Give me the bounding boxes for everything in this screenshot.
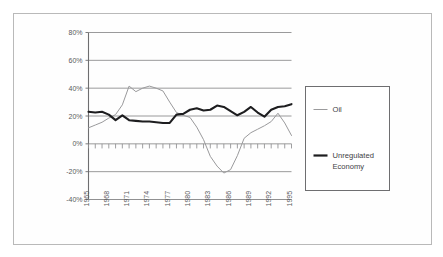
x-tick-label: 1971 (123, 191, 130, 207)
y-tick-label: -40% (66, 196, 82, 203)
data-series (89, 86, 292, 173)
y-tick-label: 40% (68, 85, 82, 92)
x-tick-labels: 1965196819711974197719801983198619891992… (83, 191, 293, 207)
chart-legend[interactable]: OilUnregulatedEconomy (306, 87, 390, 191)
x-tick-label: 1992 (265, 191, 272, 207)
x-tick-label: 1968 (103, 191, 110, 207)
x-tick-label: 1980 (184, 191, 191, 207)
y-tick-label: 0% (72, 140, 82, 147)
y-tick-label: 60% (68, 57, 82, 64)
x-tick-label: 1986 (225, 191, 232, 207)
series-line-oil (89, 86, 292, 173)
y-tick-labels: 80%60%40%20%0%-20%-40% (66, 29, 82, 203)
legend-label[interactable]: Unregulated (333, 151, 374, 160)
legend-label[interactable]: Oil (333, 105, 343, 114)
line-chart: 80%60%40%20%0%-20%-40% 19651968197119741… (0, 0, 443, 257)
gridlines (89, 33, 292, 200)
y-tick-label: 20% (68, 113, 82, 120)
x-tick-label: 1989 (245, 191, 252, 207)
x-tick-label: 1965 (83, 191, 90, 207)
y-tick-label: -20% (66, 168, 82, 175)
y-tick-label: 80% (68, 29, 82, 36)
legend-label-line2[interactable]: Economy (333, 162, 365, 171)
x-tick-label: 1974 (143, 191, 150, 207)
x-tick-label: 1995 (286, 191, 293, 207)
x-tick-label: 1983 (204, 191, 211, 207)
y-axis (86, 33, 89, 200)
chart-figure: 80%60%40%20%0%-20%-40% 19651968197119741… (0, 0, 443, 257)
series-line-unregulated-economy (89, 104, 292, 123)
zero-axis-minor-ticks (89, 144, 292, 149)
x-tick-label: 1977 (164, 191, 171, 207)
legend-box (306, 87, 390, 191)
